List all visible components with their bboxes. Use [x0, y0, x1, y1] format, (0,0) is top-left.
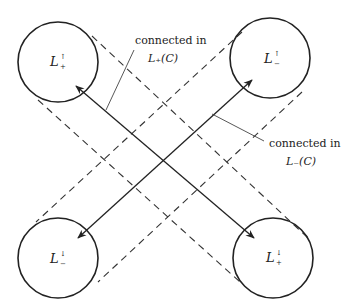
annotation-line2: L₊(C)	[147, 52, 178, 65]
node-label-tl: L ↑ +	[49, 53, 66, 71]
label-sup: ↓	[276, 249, 282, 257]
label-sub: +	[276, 259, 282, 267]
label-base: L	[49, 251, 59, 266]
label-base: L	[263, 51, 273, 66]
label-sub: −	[60, 260, 66, 268]
label-sup: ↑	[274, 50, 280, 58]
diagram-canvas: L ↑ + L ↑ − L ↓ − L ↓ + connected in L₊(…	[0, 0, 347, 301]
label-sup: ↓	[60, 250, 66, 258]
node-label-tr: L ↑ −	[263, 50, 280, 68]
leader-line-minus	[212, 114, 264, 141]
annotation-line1: connected in	[135, 34, 207, 47]
annotation-connected-minus: connected in L₋(C)	[269, 137, 341, 168]
annotation-line1: connected in	[269, 137, 341, 150]
dashed-line-lower	[38, 100, 240, 282]
dashed-band-tr-bl	[36, 32, 302, 282]
leader-line-plus	[106, 50, 134, 110]
label-sub: +	[60, 63, 66, 71]
dashed-band-tl-br	[38, 36, 308, 282]
annotation-connected-plus: connected in L₊(C)	[135, 34, 207, 65]
node-label-br: L ↓ +	[265, 249, 282, 267]
label-base: L	[265, 250, 275, 265]
dashed-line-upper	[36, 32, 242, 222]
node-label-bl: L ↓ −	[49, 250, 66, 268]
label-sub: −	[274, 60, 280, 68]
label-base: L	[49, 54, 59, 69]
annotation-line2: L₋(C)	[285, 155, 316, 168]
label-sup: ↑	[60, 53, 66, 61]
